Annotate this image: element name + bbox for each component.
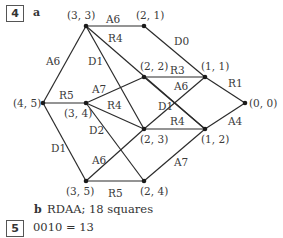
edge-label: D0 bbox=[174, 35, 189, 47]
edge-label: R4 bbox=[108, 32, 123, 44]
edge-label: A6 bbox=[45, 55, 61, 67]
edge-label: A6 bbox=[173, 80, 189, 92]
graph-node bbox=[142, 127, 147, 132]
graph-node bbox=[84, 101, 89, 106]
graph-node bbox=[203, 127, 208, 132]
graph-node bbox=[142, 24, 147, 29]
node-label: (1, 2) bbox=[201, 133, 229, 145]
edge-label: D1 bbox=[158, 100, 173, 112]
graph-node bbox=[84, 24, 89, 29]
edge-label: R5 bbox=[59, 89, 74, 101]
graph-node bbox=[142, 179, 147, 184]
graph-edges bbox=[43, 26, 245, 181]
edge-label: D1 bbox=[88, 55, 103, 67]
graph-node bbox=[203, 75, 208, 80]
graph-node bbox=[84, 179, 89, 184]
node-label: (2, 2) bbox=[140, 60, 168, 72]
question-5-number-box: 5 bbox=[6, 220, 24, 237]
node-label: (3, 4) bbox=[64, 107, 92, 119]
part-a-label: a bbox=[33, 6, 40, 19]
part-b-label: b bbox=[34, 203, 42, 216]
edge-label: R3 bbox=[170, 64, 185, 76]
graph-edge-labels: A6D0A6D1R4R5D1A7R4D2R3A6D1R4R1A4R5A6A7 bbox=[45, 13, 243, 199]
edge-label: D1 bbox=[51, 142, 66, 154]
edge-label: R4 bbox=[170, 115, 185, 127]
edge-label: A6 bbox=[91, 154, 107, 166]
graph-node bbox=[41, 101, 46, 106]
part-b-answer: RDAA; 18 squares bbox=[47, 202, 153, 216]
edge-label: A4 bbox=[227, 115, 243, 127]
edge-label: A7 bbox=[173, 156, 188, 168]
question-5-answer: 0010 = 13 bbox=[33, 220, 94, 234]
edge-label: A6 bbox=[105, 13, 121, 25]
edge-label: R1 bbox=[228, 77, 243, 89]
edge-label: A7 bbox=[91, 83, 106, 95]
node-label: (2, 3) bbox=[140, 133, 168, 145]
node-label: (4, 5) bbox=[13, 97, 41, 109]
edge-label: R5 bbox=[108, 187, 123, 199]
node-label: (1, 1) bbox=[201, 60, 229, 72]
edge-label: D2 bbox=[89, 124, 104, 136]
graph-node bbox=[142, 75, 147, 80]
node-label: (0, 0) bbox=[249, 97, 277, 109]
question-4-number-box: 4 bbox=[6, 5, 24, 22]
edge-label: R4 bbox=[107, 99, 122, 111]
node-label: (2, 4) bbox=[140, 185, 168, 197]
node-label: (2, 1) bbox=[136, 9, 164, 21]
node-label: (3, 5) bbox=[66, 185, 94, 197]
graph-node bbox=[243, 101, 248, 106]
node-label: (3, 3) bbox=[67, 9, 95, 21]
